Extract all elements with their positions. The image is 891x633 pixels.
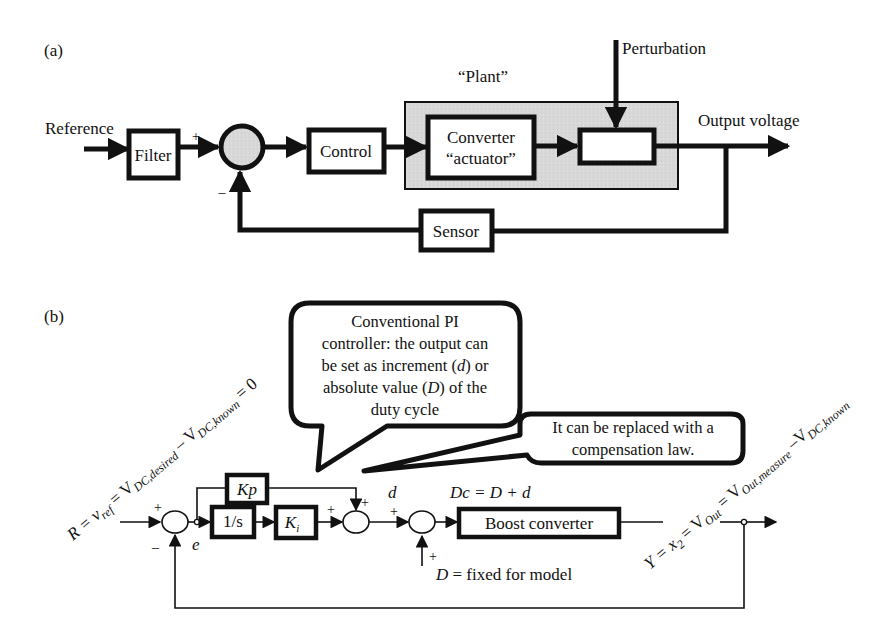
- error-branch-node: [194, 519, 199, 524]
- filter-label: Filter: [135, 146, 172, 165]
- fixed-D-label: D = fixed for model: [435, 565, 572, 584]
- compensation-callout-line-2: compensation law.: [572, 440, 695, 459]
- pi-callout-line-4: absolute value (D) of the: [323, 378, 487, 397]
- panel-a-label: (a): [44, 41, 63, 60]
- pi-summing-junction: [343, 511, 369, 533]
- sum-minus-sign: –: [218, 185, 227, 200]
- dc-equation: Dc = D + d: [449, 483, 531, 502]
- panel-b: (b) R = vref = VDC,desired – VDC,known =…: [44, 303, 852, 608]
- converter-label: Converter: [447, 128, 515, 147]
- plant-label: “Plant”: [458, 67, 508, 86]
- output-branch-node: [741, 519, 746, 524]
- panel-b-label: (b): [44, 307, 64, 326]
- sum3-plus-bottom: +: [429, 549, 437, 564]
- sum-plus-sign: +: [192, 129, 200, 144]
- load-block: [580, 130, 654, 163]
- control-block-diagram: (a) Reference Filter + – Control “Plant”…: [0, 0, 891, 633]
- panel-a: (a) Reference Filter + – Control “Plant”…: [44, 39, 800, 250]
- summing-junction: [221, 126, 263, 168]
- output-voltage-label: Output voltage: [698, 111, 800, 130]
- pi-callout-line-3: be set as increment (d) or: [321, 356, 489, 375]
- perturbation-label: Perturbation: [622, 39, 707, 58]
- control-label: Control: [320, 142, 372, 161]
- reference-label: Reference: [45, 119, 114, 138]
- sensor-label: Sensor: [433, 222, 480, 241]
- sum3-plus-left: +: [390, 504, 398, 519]
- feedback-line-left: [240, 172, 421, 230]
- compensation-callout-line-1: It can be replaced with a: [552, 418, 714, 437]
- integrator-label: 1/s: [223, 512, 243, 531]
- sum1-minus-sign: –: [151, 540, 160, 555]
- pi-callout-line-5: duty cycle: [371, 400, 439, 419]
- actuator-label: “actuator”: [446, 149, 516, 168]
- duty-summing-junction: [409, 511, 435, 533]
- error-summing-junction: [162, 511, 188, 533]
- kp-label: Kp: [236, 480, 257, 499]
- error-label: e: [192, 535, 200, 554]
- sum1-plus-sign: +: [154, 500, 162, 515]
- pi-callout-line-2: controller: the output can: [322, 334, 488, 353]
- pi-callout-line-1: Conventional PI: [351, 312, 459, 331]
- d-label: d: [388, 483, 397, 502]
- sum2-plus-left: +: [327, 502, 335, 517]
- converter-actuator-block: [428, 117, 534, 178]
- boost-converter-label: Boost converter: [485, 514, 593, 533]
- sum2-plus-top: +: [361, 495, 369, 510]
